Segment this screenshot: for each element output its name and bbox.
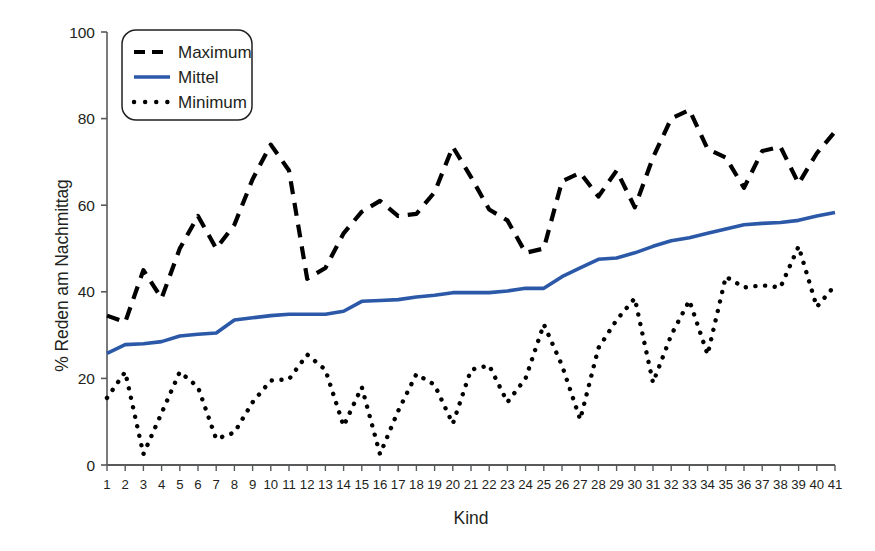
x-axis-tick-label: 10	[263, 477, 278, 492]
y-axis: 020406080100	[69, 24, 107, 474]
x-axis-tick-label: 22	[482, 477, 497, 492]
legend-label-maximum: Maximum	[178, 43, 252, 62]
x-axis-tick-label: 23	[500, 477, 515, 492]
x-axis-tick-label: 19	[427, 477, 442, 492]
y-axis-tick-label: 0	[86, 457, 95, 474]
chart-figure: % Reden am Nachmittag Kind 020406080100 …	[0, 0, 875, 551]
x-axis-tick-label: 15	[354, 477, 369, 492]
x-axis-tick-label: 6	[194, 477, 201, 492]
series-line-maximum	[107, 110, 835, 322]
x-axis-tick-label: 8	[231, 477, 238, 492]
x-axis-tick-label: 20	[445, 477, 460, 492]
x-axis-tick-label: 26	[555, 477, 570, 492]
x-axis-tick-label: 12	[300, 477, 315, 492]
x-axis-tick-label: 5	[176, 477, 183, 492]
x-axis-tick-label: 37	[755, 477, 770, 492]
x-axis-tick-label: 30	[627, 477, 642, 492]
y-axis-tick-label: 100	[69, 24, 95, 41]
x-axis-tick-label: 3	[140, 477, 147, 492]
x-axis: 1234567891011121314151617181920212223242…	[103, 465, 842, 492]
y-axis-tick-label: 60	[78, 197, 96, 214]
legend-label-minimum: Minimum	[178, 93, 247, 112]
x-axis-tick-label: 41	[828, 477, 843, 492]
plot-area: 020406080100 123456789101112131415161718…	[0, 0, 875, 551]
y-axis-tick-label: 40	[78, 283, 96, 300]
x-axis-tick-label: 4	[158, 477, 165, 492]
x-axis-tick-label: 40	[809, 477, 824, 492]
x-axis-tick-label: 17	[391, 477, 406, 492]
y-axis-tick-label: 20	[78, 370, 96, 387]
x-axis-tick-label: 25	[536, 477, 551, 492]
x-axis-tick-label: 14	[336, 477, 351, 492]
x-axis-tick-label: 21	[464, 477, 479, 492]
x-axis-tick-label: 34	[700, 477, 715, 492]
x-axis-tick-label: 2	[122, 477, 129, 492]
x-axis-tick-label: 31	[646, 477, 661, 492]
x-axis-tick-label: 39	[791, 477, 806, 492]
x-axis-tick-label: 16	[373, 477, 388, 492]
x-axis-tick-label: 13	[318, 477, 333, 492]
series-line-minimum	[107, 246, 835, 454]
x-axis-tick-label: 27	[573, 477, 588, 492]
x-axis-tick-label: 18	[409, 477, 424, 492]
x-axis-tick-label: 29	[609, 477, 624, 492]
x-axis-tick-label: 28	[591, 477, 606, 492]
x-axis-tick-label: 32	[664, 477, 679, 492]
x-axis-tick-label: 24	[518, 477, 533, 492]
x-axis-tick-label: 1	[103, 477, 110, 492]
x-axis-tick-label: 36	[737, 477, 752, 492]
y-axis-tick-label: 80	[78, 110, 96, 127]
x-axis-tick-label: 7	[213, 477, 220, 492]
legend: MaximumMittelMinimum	[122, 30, 252, 120]
x-axis-tick-label: 35	[718, 477, 733, 492]
legend-label-mittel: Mittel	[178, 68, 219, 87]
x-axis-tick-label: 9	[249, 477, 256, 492]
x-axis-tick-label: 33	[682, 477, 697, 492]
x-axis-tick-label: 11	[282, 477, 296, 492]
data-series-group	[107, 110, 835, 454]
x-axis-tick-label: 38	[773, 477, 788, 492]
